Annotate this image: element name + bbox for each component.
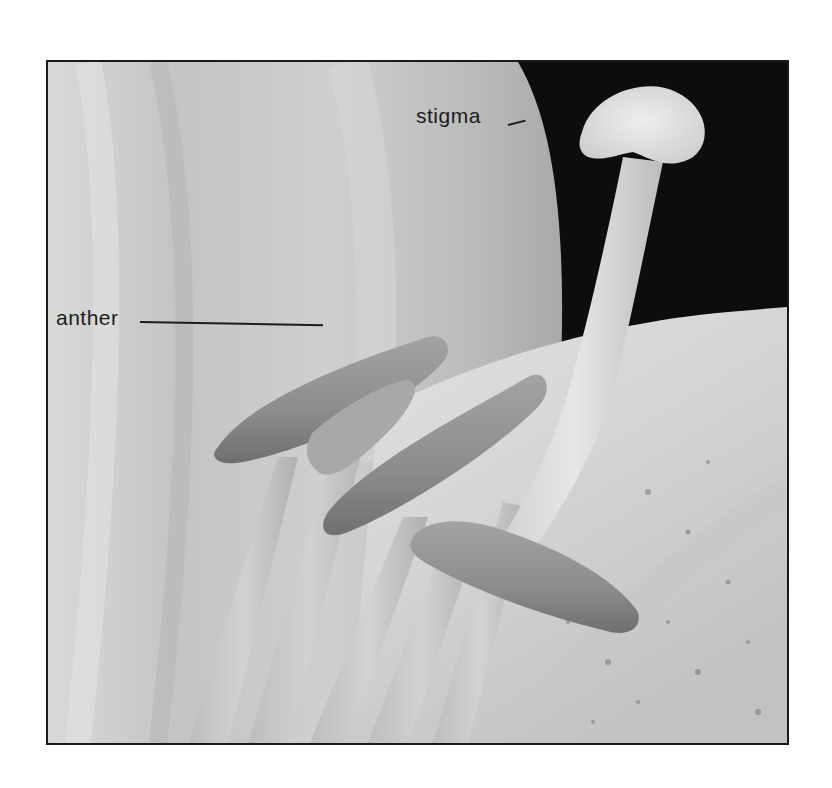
stigma-label: stigma	[416, 104, 481, 128]
lily-photograph	[48, 62, 787, 743]
anther-label: anther	[56, 306, 119, 330]
photo-frame: stigma anther	[46, 60, 789, 745]
